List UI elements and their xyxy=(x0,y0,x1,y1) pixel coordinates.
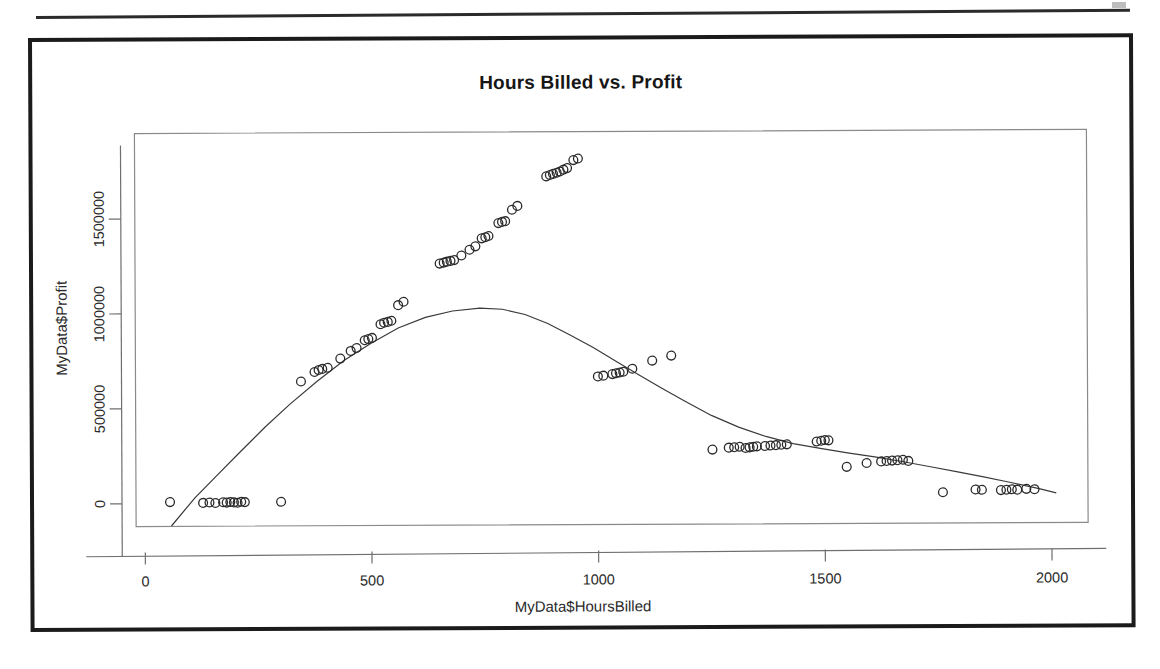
data-point-group xyxy=(164,152,1039,507)
x-tick-label: 2000 xyxy=(1036,569,1068,585)
data-point xyxy=(862,459,871,468)
x-tick-label: 1000 xyxy=(583,571,615,587)
loess-curve xyxy=(171,306,1057,526)
x-tick-label: 1500 xyxy=(809,570,841,586)
data-point xyxy=(336,354,345,363)
x-axis-line xyxy=(86,548,1106,556)
data-point xyxy=(708,445,717,454)
data-point xyxy=(323,363,332,372)
data-point xyxy=(1030,485,1039,494)
data-point xyxy=(939,488,948,497)
data-point xyxy=(166,498,175,507)
data-point xyxy=(277,497,286,506)
data-point xyxy=(667,351,676,360)
panel-border xyxy=(134,129,1088,526)
data-point xyxy=(297,377,306,386)
data-point xyxy=(977,485,986,494)
y-tick-label: 1000000 xyxy=(91,286,107,343)
data-point xyxy=(842,462,851,471)
x-tick-label: 0 xyxy=(141,573,149,589)
data-point xyxy=(599,371,608,380)
figure-frame: Hours Billed vs. Profit 0500100015002000… xyxy=(28,33,1136,632)
data-point xyxy=(782,440,791,449)
scatter-plot-canvas: 0500100015002000050000010000001500000 xyxy=(32,37,1132,628)
data-point xyxy=(735,442,744,451)
page-horizontal-rule xyxy=(36,9,1130,19)
y-tick-label: 1500000 xyxy=(91,191,107,248)
x-tick-label: 500 xyxy=(360,572,384,588)
data-point xyxy=(1013,485,1022,494)
y-tick-label: 0 xyxy=(92,500,108,508)
data-point xyxy=(648,356,657,365)
y-tick-label: 500000 xyxy=(92,385,108,433)
y-axis-label: MyData$Profit xyxy=(52,178,70,478)
y-axis-line xyxy=(120,146,122,557)
page-margin-mark xyxy=(1112,2,1126,8)
data-point xyxy=(457,251,466,260)
data-point xyxy=(904,456,913,465)
plot-area: Hours Billed vs. Profit 0500100015002000… xyxy=(32,37,1132,628)
